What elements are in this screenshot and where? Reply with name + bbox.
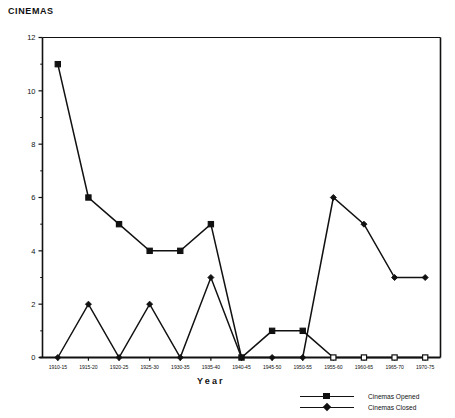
legend-item-cinemas-closed: Cinemas Closed: [300, 402, 452, 413]
data-point-cinemas-closed-1925-30: [147, 301, 153, 307]
data-point-cinemas-opened-1950-55: [300, 328, 305, 333]
x-axis-tick-label: 1920-25: [110, 364, 129, 370]
y-axis-tick-label: 2: [31, 300, 35, 309]
diamond-marker-icon: [300, 402, 354, 413]
data-point-cinemas-opened-1960-65: [361, 355, 366, 360]
data-point-cinemas-closed-1910-15: [55, 355, 61, 361]
x-axis-tick-label: 1970-75: [416, 364, 435, 370]
data-point-cinemas-opened-1925-30: [147, 248, 152, 253]
data-point-cinemas-opened-1970-75: [423, 355, 428, 360]
x-axis-tick-label: 1950-55: [294, 364, 313, 370]
legend-label-cinemas-opened: Cinemas Opened: [354, 393, 419, 400]
data-point-cinemas-closed-1915-20: [85, 301, 91, 307]
y-axis-tick-label: 12: [27, 33, 35, 42]
x-axis-tick-label: 1930-35: [171, 364, 190, 370]
data-point-cinemas-opened-1945-50: [270, 328, 275, 333]
chart-legend: Cinemas Opened Cinemas Closed: [300, 391, 452, 413]
y-axis-tick-label: 6: [31, 193, 35, 202]
line-chart-plot: 0246810121910-151915-201920-251925-30193…: [0, 0, 455, 418]
data-point-cinemas-closed-1950-55: [300, 355, 306, 361]
data-point-cinemas-opened-1955-60: [331, 355, 336, 360]
data-point-cinemas-closed-1970-75: [422, 275, 428, 281]
x-axis-tick-label: 1910-15: [49, 364, 68, 370]
x-axis-tick-label: 1965-70: [385, 364, 404, 370]
y-axis-tick-label: 8: [31, 140, 35, 149]
x-axis-tick-label: 1915-20: [79, 364, 98, 370]
legend-item-cinemas-opened: Cinemas Opened: [300, 391, 452, 402]
data-point-cinemas-opened-1920-25: [116, 222, 121, 227]
data-point-cinemas-opened-1910-15: [55, 62, 60, 67]
data-point-cinemas-closed-1930-35: [177, 355, 183, 361]
x-axis-tick-label: 1925-30: [140, 364, 159, 370]
data-point-cinemas-opened-1915-20: [86, 195, 91, 200]
data-point-cinemas-closed-1920-25: [116, 355, 122, 361]
x-axis-title: Year: [197, 376, 225, 386]
y-axis-tick-label: 10: [27, 87, 35, 96]
chart-figure: CINEMAS 0246810121910-151915-201920-2519…: [0, 0, 455, 418]
data-point-cinemas-closed-1965-70: [392, 275, 398, 281]
y-axis-tick-label: 0: [31, 353, 35, 362]
x-axis-tick-label: 1940-45: [232, 364, 251, 370]
data-point-cinemas-opened-1935-40: [208, 222, 213, 227]
x-axis-tick-label: 1935-40: [202, 364, 221, 370]
series-line-cinemas-closed: [58, 198, 425, 358]
data-point-cinemas-closed-1935-40: [208, 275, 214, 281]
square-marker-icon: [300, 391, 354, 402]
x-axis-tick-label: 1960-65: [355, 364, 374, 370]
data-point-cinemas-closed-1945-50: [269, 355, 275, 361]
legend-label-cinemas-closed: Cinemas Closed: [354, 404, 416, 411]
data-point-cinemas-opened-1930-35: [178, 248, 183, 253]
x-axis-tick-label: 1955-60: [324, 364, 343, 370]
series-line-cinemas-opened: [58, 64, 425, 357]
data-point-cinemas-opened-1965-70: [392, 355, 397, 360]
x-axis-tick-label: 1945-50: [263, 364, 282, 370]
y-axis-tick-label: 4: [31, 247, 35, 256]
